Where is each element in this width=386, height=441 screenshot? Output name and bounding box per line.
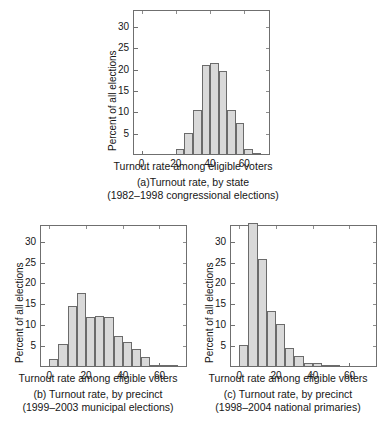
y-axis-tick-right xyxy=(266,134,269,135)
x-axis-tick-top xyxy=(313,226,314,229)
panel-a-turnout-by-state: 020406051015202530Percent of all electio… xyxy=(95,4,291,155)
y-axis-label: Percent of all elections xyxy=(107,50,118,151)
histogram-bar xyxy=(285,348,294,367)
y-axis-tick xyxy=(134,48,138,49)
x-axis-tick-top xyxy=(239,226,240,229)
y-axis-tick xyxy=(231,242,235,243)
histogram-bar xyxy=(86,317,95,367)
x-axis-tick xyxy=(86,363,87,367)
y-axis-tick xyxy=(231,263,235,264)
x-axis-tick-top xyxy=(276,226,277,229)
x-axis-tick xyxy=(49,363,50,367)
histogram-bar xyxy=(141,357,150,367)
y-axis-tick xyxy=(231,346,235,347)
y-axis-tick-right xyxy=(183,304,186,305)
histogram-bar xyxy=(114,336,123,367)
y-axis-tick xyxy=(41,325,45,326)
histogram-bar xyxy=(77,293,86,367)
y-axis-tick-right xyxy=(373,304,376,305)
histogram-bar xyxy=(313,363,322,367)
panel-c-turnout-by-precinct-primaries: 020406051015202530Percent of all electio… xyxy=(192,219,384,367)
x-axis-tick xyxy=(176,151,177,155)
histogram-bar xyxy=(267,311,276,367)
y-axis-tick-right xyxy=(373,283,376,284)
histogram-bars xyxy=(133,10,270,155)
x-axis-tick-top xyxy=(123,226,124,229)
x-axis-label-c: Turnout rate among eligible voters xyxy=(192,372,384,384)
x-axis-tick xyxy=(239,363,240,367)
x-axis-tick xyxy=(244,151,245,155)
y-axis-tick-right xyxy=(373,346,376,347)
x-axis-tick xyxy=(142,151,143,155)
histogram-bars xyxy=(40,225,187,367)
caption-c-line2: (1998–2004 national primaries) xyxy=(192,401,384,414)
histogram-bar xyxy=(58,344,67,367)
histogram-bar xyxy=(248,223,257,367)
x-axis-tick-top xyxy=(142,11,143,14)
histogram-bar xyxy=(244,149,253,155)
panel-b-turnout-by-precinct-municipal: 020406051015202530Percent of all electio… xyxy=(2,219,194,367)
histogram-bar xyxy=(150,365,159,367)
x-axis-tick-top xyxy=(210,11,211,14)
y-axis-tick-right xyxy=(373,242,376,243)
y-axis-tick-right xyxy=(183,346,186,347)
histogram-bar xyxy=(304,363,313,367)
caption-b-line1: (b) Turnout rate, by precinct xyxy=(2,388,194,401)
caption-a-line1: (a)Turnout rate, by state xyxy=(95,176,291,189)
x-axis-tick-top xyxy=(349,226,350,229)
y-axis-tick-right xyxy=(183,263,186,264)
histogram-bar xyxy=(95,316,104,367)
y-axis-tick xyxy=(41,283,45,284)
histogram-bar xyxy=(236,123,245,155)
y-axis-tick-right xyxy=(183,325,186,326)
y-axis-tick-right xyxy=(373,263,376,264)
plot-area-c: 020406051015202530Percent of all electio… xyxy=(192,219,384,367)
x-axis-tick xyxy=(159,363,160,367)
y-axis-tick-right xyxy=(183,283,186,284)
y-axis-tick-label: 30 xyxy=(208,237,226,247)
plot-area-b: 020406051015202530Percent of all electio… xyxy=(2,219,194,367)
histogram-bar xyxy=(68,306,77,367)
caption-a-line2: (1982–1998 congressional elections) xyxy=(95,189,291,202)
caption-b-line2: (1999–2003 municipal elections) xyxy=(2,401,194,414)
y-axis-tick-right xyxy=(373,325,376,326)
y-axis-tick xyxy=(134,112,138,113)
x-axis-tick xyxy=(123,363,124,367)
y-axis-tick-right xyxy=(266,112,269,113)
caption-c-line1: (c) Turnout rate, by precinct xyxy=(192,388,384,401)
histogram-bar xyxy=(159,365,168,367)
x-axis-tick-top xyxy=(86,226,87,229)
histogram-bar xyxy=(132,349,141,367)
histogram-bar xyxy=(227,110,236,155)
y-axis-tick xyxy=(41,304,45,305)
x-axis-tick xyxy=(313,363,314,367)
y-axis-tick xyxy=(41,346,45,347)
histogram-bar xyxy=(294,356,303,367)
histogram-bar xyxy=(210,63,219,155)
y-axis-tick-label: 30 xyxy=(111,22,129,32)
histogram-bar xyxy=(193,110,202,155)
histogram-bar xyxy=(331,365,340,367)
histogram-bar xyxy=(123,342,132,367)
y-axis-tick xyxy=(134,70,138,71)
y-axis-tick xyxy=(41,242,45,243)
y-axis-tick-right xyxy=(266,27,269,28)
y-axis-tick xyxy=(134,134,138,135)
x-axis-tick-top xyxy=(244,11,245,14)
histogram-bars xyxy=(230,225,377,367)
y-axis-tick-label: 30 xyxy=(18,237,36,247)
histogram-bar xyxy=(202,65,211,155)
y-axis-tick xyxy=(231,283,235,284)
histogram-bar xyxy=(253,153,262,155)
histogram-bar xyxy=(184,133,193,155)
y-axis-label: Percent of all elections xyxy=(14,262,25,363)
x-axis-tick xyxy=(276,363,277,367)
y-axis-tick xyxy=(231,325,235,326)
y-axis-tick xyxy=(134,91,138,92)
y-axis-tick-right xyxy=(266,91,269,92)
histogram-bar xyxy=(258,259,267,367)
x-axis-label-b: Turnout rate among eligible voters xyxy=(2,372,194,384)
y-axis-tick xyxy=(41,263,45,264)
y-axis-tick-right xyxy=(266,48,269,49)
histogram-bar xyxy=(104,317,113,367)
